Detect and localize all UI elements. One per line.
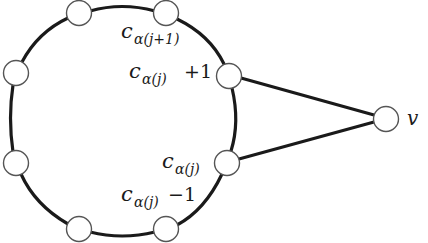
edge-top-left <box>22 18 68 62</box>
label-c-alpha-j-plus-one: c α(j) +1 <box>129 59 212 87</box>
svg-text:−1: −1 <box>168 183 196 205</box>
edge-left <box>11 85 14 152</box>
v-edges <box>239 78 374 159</box>
edge-top <box>90 7 155 12</box>
svg-text:c: c <box>121 182 133 206</box>
edge-bottom-left <box>21 174 68 224</box>
svg-text:c: c <box>129 59 141 83</box>
node-v <box>374 107 399 132</box>
label-c-alpha-j-minus-one: c α(j) −1 <box>121 182 196 210</box>
node-c-alpha-j-plus-1 <box>217 64 242 89</box>
node-bottom-right <box>154 217 179 242</box>
edge-lower-to-v <box>239 122 374 159</box>
edge-top-right <box>177 19 224 64</box>
svg-text:c: c <box>162 149 174 173</box>
edge-bottom <box>90 232 155 236</box>
node-bottom-left <box>67 217 92 242</box>
svg-text:α(j+1): α(j+1) <box>134 31 179 47</box>
svg-text:α(j): α(j) <box>175 161 200 177</box>
svg-text:+1: +1 <box>184 60 212 82</box>
graph-diagram: c α(j+1) c α(j) +1 c α(j) c α(j) −1 v <box>0 0 428 243</box>
svg-text:α(j): α(j) <box>134 194 159 210</box>
node-left-upper <box>4 61 29 86</box>
node-left-lower <box>4 151 29 176</box>
node-c-alpha-j <box>215 151 240 176</box>
label-c-alpha-j: c α(j) <box>162 149 200 177</box>
edge-upper-to-v <box>241 78 374 115</box>
node-top-right <box>154 1 179 26</box>
label-v: v <box>407 106 419 130</box>
edge-right <box>231 88 236 151</box>
svg-text:c: c <box>121 19 133 43</box>
svg-text:α(j): α(j) <box>142 71 167 87</box>
node-top-left <box>67 1 92 26</box>
